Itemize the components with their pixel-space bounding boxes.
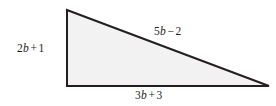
bottom-side-operator: + — [147, 89, 157, 101]
hypotenuse-variable: b — [160, 25, 166, 37]
hypotenuse-constant: 2 — [176, 25, 182, 37]
left-side-constant: 1 — [39, 42, 45, 54]
left-side-variable: b — [23, 42, 29, 54]
triangle-polygon — [67, 10, 269, 86]
hypotenuse-label: 5b−2 — [154, 26, 182, 38]
left-side-label: 2b+1 — [17, 43, 45, 55]
bottom-side-label: 3b+3 — [135, 90, 163, 102]
hypotenuse-operator: − — [166, 25, 176, 37]
bottom-side-constant: 3 — [157, 89, 163, 101]
triangle-figure: 2b+1 5b−2 3b+3 — [0, 0, 276, 106]
bottom-side-variable: b — [141, 89, 147, 101]
left-side-operator: + — [29, 42, 39, 54]
